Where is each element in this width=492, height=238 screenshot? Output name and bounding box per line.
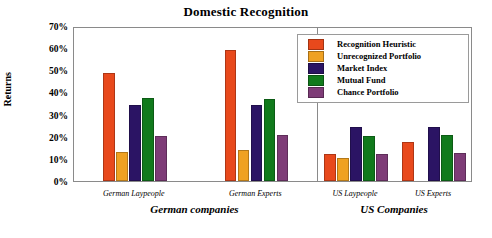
bar bbox=[454, 153, 466, 181]
y-axis-tick-label: 10% bbox=[34, 155, 68, 165]
y-axis-tick-label: 70% bbox=[34, 22, 68, 32]
x-axis-panel-label: German companies bbox=[150, 203, 238, 215]
y-axis-tick-label: 60% bbox=[34, 44, 68, 54]
legend-item[interactable]: Unrecognized Portfolio bbox=[303, 51, 463, 62]
bar bbox=[238, 150, 250, 181]
bar bbox=[350, 127, 362, 181]
y-axis-tick-label: 50% bbox=[34, 66, 68, 76]
legend-label: Mutual Fund bbox=[337, 76, 385, 85]
bar bbox=[441, 135, 453, 182]
bar bbox=[402, 142, 414, 181]
bar bbox=[116, 152, 128, 181]
chart-legend: Recognition HeuristicUnrecognized Portfo… bbox=[297, 34, 469, 103]
y-axis-tick-label: 20% bbox=[34, 133, 68, 143]
x-axis-group-label: US Laypeople bbox=[332, 189, 377, 198]
legend-item[interactable]: Recognition Heuristic bbox=[303, 39, 463, 50]
y-axis-tick-label: 0% bbox=[34, 177, 68, 187]
x-axis-panel-label: US Companies bbox=[360, 203, 428, 215]
bar bbox=[103, 73, 115, 182]
legend-label: Recognition Heuristic bbox=[337, 40, 416, 49]
bar bbox=[337, 158, 349, 181]
x-axis-group-label: US Experts bbox=[415, 189, 451, 198]
bar bbox=[324, 154, 336, 181]
legend-label: Unrecognized Portfolio bbox=[337, 52, 421, 61]
legend-item[interactable]: Market Index bbox=[303, 63, 463, 74]
legend-label: Market Index bbox=[337, 64, 387, 73]
bar bbox=[225, 50, 237, 181]
bar bbox=[277, 135, 289, 181]
legend-item[interactable]: Chance Portfolio bbox=[303, 87, 463, 98]
legend-swatch-icon bbox=[308, 87, 324, 98]
y-axis-tick-label: 40% bbox=[34, 88, 68, 98]
bar bbox=[155, 136, 167, 181]
y-axis-label: Returns bbox=[2, 72, 16, 106]
y-axis-tick-label: 30% bbox=[34, 111, 68, 121]
bar bbox=[142, 98, 154, 181]
x-axis-group-label: German Laypeople bbox=[103, 189, 165, 198]
x-axis-group-label: German Experts bbox=[229, 189, 282, 198]
bar bbox=[129, 105, 141, 181]
chart-title: Domestic Recognition bbox=[0, 4, 492, 20]
legend-label: Chance Portfolio bbox=[337, 88, 399, 97]
bar bbox=[428, 127, 440, 181]
bar bbox=[264, 99, 276, 181]
legend-item[interactable]: Mutual Fund bbox=[303, 75, 463, 86]
chart-container: Domestic Recognition Returns 70%60%50%40… bbox=[0, 0, 492, 238]
bar bbox=[363, 136, 375, 181]
bar bbox=[376, 154, 388, 181]
legend-swatch-icon bbox=[308, 75, 324, 86]
legend-swatch-icon bbox=[308, 63, 324, 74]
bar bbox=[251, 105, 263, 181]
legend-swatch-icon bbox=[308, 39, 324, 50]
legend-swatch-icon bbox=[308, 51, 324, 62]
